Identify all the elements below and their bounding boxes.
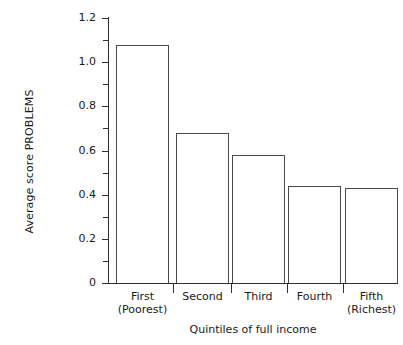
y-tick-major xyxy=(102,106,109,107)
bar xyxy=(232,155,285,283)
y-tick-major xyxy=(102,239,109,240)
y-tick-minor xyxy=(103,217,109,218)
y-tick-minor xyxy=(103,84,109,85)
y-tick-label: 0.2 xyxy=(56,233,96,244)
y-tick-label: 1.0 xyxy=(56,56,96,67)
y-tick-label: 0.4 xyxy=(56,189,96,200)
y-tick-minor xyxy=(103,40,109,41)
y-tick-label: 0.6 xyxy=(56,145,96,156)
y-tick-minor xyxy=(103,128,109,129)
bar xyxy=(176,133,229,283)
y-tick-major xyxy=(102,62,109,63)
x-tick-label: Fifth(Richest) xyxy=(334,290,403,316)
x-axis-line xyxy=(108,283,398,284)
y-tick-major xyxy=(102,18,109,19)
bar xyxy=(345,188,398,283)
y-tick-label: 0 xyxy=(56,277,96,288)
y-axis-title: Average score PROBLEMS xyxy=(23,57,36,267)
bar-chart: Average score PROBLEMS 1.21.00.80.60.40.… xyxy=(0,0,403,345)
y-tick-minor xyxy=(103,261,109,262)
y-tick-major xyxy=(102,195,109,196)
y-tick-minor xyxy=(103,173,109,174)
y-tick-label: 0.8 xyxy=(56,100,96,111)
y-tick-major xyxy=(102,151,109,152)
x-axis-title: Quintiles of full income xyxy=(108,323,398,336)
y-tick-label: 1.2 xyxy=(56,12,96,23)
bar xyxy=(288,186,341,283)
y-tick-major xyxy=(102,283,109,284)
bar xyxy=(116,45,169,284)
